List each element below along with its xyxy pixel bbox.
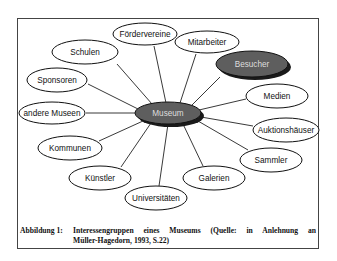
node-label: Galerien	[199, 174, 230, 183]
node-label: Sammler	[255, 156, 288, 165]
edge-museum-schulen	[117, 64, 152, 104]
edge-museum-fordervereine	[154, 46, 166, 103]
stakeholder-diagram: FördervereineMitarbeiterSchulenSponsoren…	[0, 0, 337, 261]
edge-museum-sponsoren	[88, 84, 138, 109]
edge-museum-kunstler	[121, 123, 151, 167]
node-label: Fördervereine	[120, 30, 171, 39]
edge-museum-besucher	[191, 77, 220, 106]
edge-museum-kommunen	[99, 121, 143, 141]
edge-museum-mitarbeiter	[180, 54, 196, 103]
node-universitaten: Universitäten	[125, 186, 187, 210]
caption-label: Abbildung 1:	[20, 226, 63, 236]
node-medien: Medien	[246, 84, 308, 108]
node-label: Mitarbeiter	[188, 38, 227, 47]
node-label: Besucher	[235, 60, 270, 69]
node-auktionshauser: Auktionshäuser	[253, 118, 319, 142]
node-label: andere Museen	[24, 109, 81, 118]
node-kommunen: Kommunen	[38, 136, 102, 160]
node-besucher: Besucher	[216, 51, 291, 80]
node-museum: Museum	[135, 102, 204, 127]
nodes: FördervereineMitarbeiterSchulenSponsoren…	[19, 23, 319, 210]
node-label: Universitäten	[132, 194, 180, 203]
node-galerien: Galerien	[183, 166, 245, 190]
edge-museum-sammler	[198, 121, 248, 150]
edge-museum-auktionshauser	[201, 117, 253, 126]
node-fordervereine: Fördervereine	[113, 23, 177, 45]
node-kunstler: Künstler	[69, 166, 131, 190]
node-label: Sponsoren	[37, 76, 77, 85]
edge-museum-galerien	[183, 124, 203, 166]
node-label: Schulen	[70, 48, 100, 57]
edge-museum-universitaten	[159, 124, 168, 186]
node-sammler: Sammler	[240, 148, 302, 172]
node-mitarbeiter: Mitarbeiter	[175, 31, 239, 53]
node-andere-museen: andere Museen	[19, 102, 85, 124]
node-schulen: Schulen	[52, 40, 118, 64]
node-label: Medien	[264, 92, 291, 101]
node-sponsoren: Sponsoren	[27, 68, 87, 92]
edge-museum-medien	[199, 99, 246, 110]
node-label: Kommunen	[49, 144, 91, 153]
node-label: Museum	[152, 109, 184, 118]
caption-line-1: Interessengruppen eines Museums (Quelle:…	[73, 226, 316, 236]
node-label: Auktionshäuser	[258, 126, 315, 135]
caption-line-2: Müller-Hagedorn, 1993, S.22)	[73, 236, 169, 246]
node-label: Künstler	[85, 174, 115, 183]
